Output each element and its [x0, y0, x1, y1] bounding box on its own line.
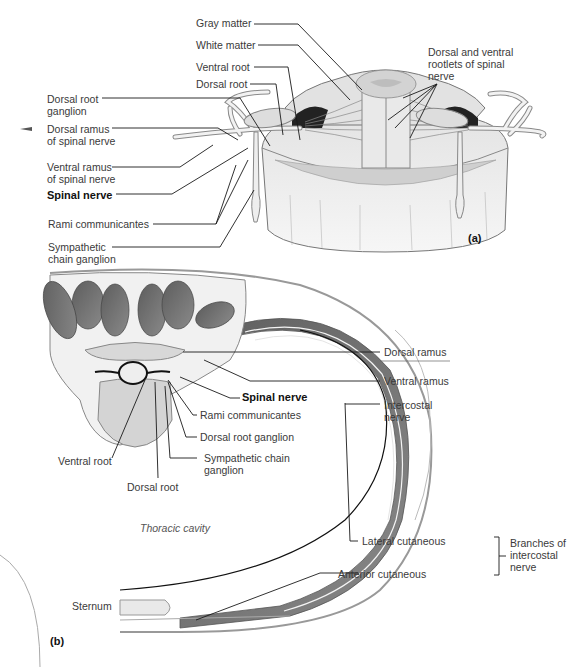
label-line: intercostal [510, 549, 566, 561]
label-line: of spinal nerve [47, 173, 115, 185]
label-line: Sympathetic chain [204, 452, 290, 464]
label-lateral-cutaneous: Lateral cutaneous [362, 535, 445, 547]
label-sympathetic-chain-ganglion-b: Sympathetic chain ganglion [204, 452, 290, 476]
label-ventral-ramus-a: Ventral ramus of spinal nerve [47, 161, 115, 185]
label-dorsal-ramus-b: Dorsal ramus [384, 346, 446, 358]
label-line: chain ganglion [48, 253, 116, 265]
label-rami-communicantes-b: Rami communicantes [200, 409, 301, 421]
label-dorsal-root-a: Dorsal root [196, 78, 247, 90]
label-branches-of-intercostal-nerve: Branches of intercostal nerve [510, 537, 566, 573]
label-sternum: Sternum [72, 600, 112, 612]
label-rami-communicantes-a: Rami communicantes [48, 218, 149, 230]
label-line: nerve [384, 411, 432, 423]
panel-a-tag: (a) [468, 232, 481, 244]
label-spinal-nerve-b: Spinal nerve [242, 391, 307, 403]
label-anterior-cutaneous: Anterior cutaneous [338, 568, 426, 580]
label-line: Dorsal root [47, 93, 98, 105]
panel-b-tag: (b) [50, 635, 64, 647]
label-line: nerve [428, 70, 513, 82]
label-line: Ventral ramus [47, 161, 115, 173]
label-thoracic-cavity: Thoracic cavity [140, 522, 210, 534]
label-line: ganglion [47, 105, 98, 117]
label-dorsal-root-ganglion-a: Dorsal root ganglion [47, 93, 98, 117]
label-line: rootlets of spinal [428, 58, 513, 70]
label-ventral-root-a: Ventral root [196, 61, 250, 73]
label-line: ganglion [204, 464, 290, 476]
label-dorsal-root-ganglion-b: Dorsal root ganglion [200, 431, 294, 443]
label-line: Intercostal [384, 399, 432, 411]
label-intercostal-nerve: Intercostal nerve [384, 399, 432, 423]
label-spinal-nerve-a: Spinal nerve [47, 189, 112, 201]
label-sympathetic-chain-ganglion-a: Sympathetic chain ganglion [48, 241, 116, 265]
label-dorsal-ramus-a: Dorsal ramus of spinal nerve [47, 123, 115, 147]
label-line: nerve [510, 561, 566, 573]
label-line: Sympathetic [48, 241, 116, 253]
label-ventral-ramus-b: Ventral ramus [384, 375, 449, 387]
label-dorsal-root-b: Dorsal root [127, 481, 178, 493]
label-line: Branches of [510, 537, 566, 549]
label-line: Dorsal and ventral [428, 46, 513, 58]
label-white-matter: White matter [196, 39, 256, 51]
label-line: of spinal nerve [47, 135, 115, 147]
label-rootlets: Dorsal and ventral rootlets of spinal ne… [428, 46, 513, 82]
label-ventral-root-b: Ventral root [58, 455, 112, 467]
label-gray-matter: Gray matter [196, 17, 251, 29]
spinal-nerve-figure: Gray matter White matter Ventral root Do… [0, 0, 573, 667]
label-line: Dorsal ramus [47, 123, 115, 135]
